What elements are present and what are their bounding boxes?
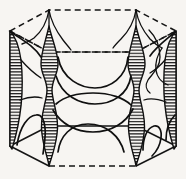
figure-background [0,0,186,179]
fermi-surface-diagram [0,0,186,179]
figure-container: Fermi surface within hexagonal Brillouin… [0,0,186,179]
